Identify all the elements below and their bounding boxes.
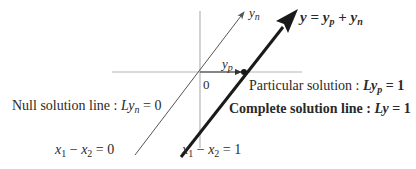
particular-vector-label: yp bbox=[222, 56, 233, 72]
complete-prefix: Complete solution line : bbox=[229, 101, 374, 116]
particular-eq-L: L bbox=[363, 78, 371, 93]
null-vector-sub: n bbox=[255, 11, 260, 22]
particular-prefix: Particular solution : bbox=[249, 78, 363, 93]
complete-vector-label: y = yp + yn bbox=[300, 9, 363, 25]
origin-label: 0 bbox=[203, 77, 210, 93]
null-solution-label: Null solution line : Lyn = 0 bbox=[12, 98, 161, 114]
complete-eq-L: Ly bbox=[374, 101, 388, 116]
complete-solution-label: Complete solution line : Ly = 1 bbox=[229, 101, 411, 117]
particular-point bbox=[241, 69, 247, 75]
complete-eq-rhs: = 1 bbox=[389, 101, 411, 116]
complete-line-op: − bbox=[193, 142, 208, 157]
particular-solution-label: Particular solution : Lyp = 1 bbox=[249, 78, 404, 94]
complete-line-rhs: = 1 bbox=[219, 142, 241, 157]
null-prefix: Null solution line : bbox=[12, 98, 121, 113]
complete-eq: = bbox=[307, 9, 323, 25]
complete-lhs: y bbox=[300, 9, 307, 25]
null-eq-rhs: = 0 bbox=[139, 98, 161, 113]
particular-eq-rhs: = 1 bbox=[382, 78, 404, 93]
null-line-rhs: = 0 bbox=[92, 142, 114, 157]
null-line-equation: x1 − x2 = 0 bbox=[55, 142, 114, 158]
null-line-op: − bbox=[66, 142, 81, 157]
null-eq-L: Ly bbox=[121, 98, 135, 113]
null-solution-line bbox=[135, 12, 244, 155]
particular-vector-sub: p bbox=[228, 62, 233, 73]
complete-plus: + bbox=[334, 9, 350, 25]
complete-line-equation: x1 − x2 = 1 bbox=[182, 142, 241, 158]
null-vector-label: yn bbox=[249, 5, 260, 21]
complete-t2sub: n bbox=[357, 16, 363, 27]
